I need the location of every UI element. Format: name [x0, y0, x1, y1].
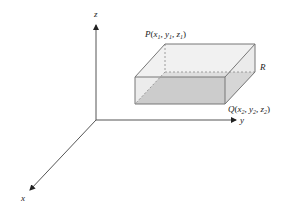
- x-axis-label: x: [20, 193, 25, 203]
- rectangular-box: [135, 44, 255, 104]
- point-p-label: P(x1, y1, z1): [144, 29, 186, 40]
- x-axis: [30, 120, 96, 190]
- y-axis-label: y: [239, 115, 244, 125]
- box-front-face: [135, 77, 225, 104]
- z-axis-label: z: [93, 9, 98, 19]
- coordinate-diagram: z y x P(x1, y1, z1) R Q(x2, y2, z2): [0, 0, 291, 208]
- point-q-label: Q(x2, y2, z2): [228, 104, 270, 115]
- point-r-label: R: [259, 62, 266, 72]
